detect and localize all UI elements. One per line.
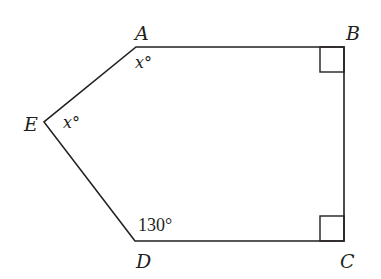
pentagon-diagram: A B C D E x° x° 130° xyxy=(0,0,381,279)
angle-label-a: x° xyxy=(135,53,152,72)
right-angle-marker-b xyxy=(320,47,344,72)
right-angle-marker-c xyxy=(320,216,344,241)
vertex-label-a: A xyxy=(133,22,149,44)
pentagon-shape xyxy=(44,47,344,241)
vertex-label-b: B xyxy=(345,22,360,44)
angle-label-e: x° xyxy=(63,113,80,132)
vertex-label-c: C xyxy=(340,250,355,272)
angle-label-d: 130° xyxy=(138,215,172,235)
vertex-label-e: E xyxy=(23,113,38,135)
vertex-label-d: D xyxy=(135,250,151,272)
